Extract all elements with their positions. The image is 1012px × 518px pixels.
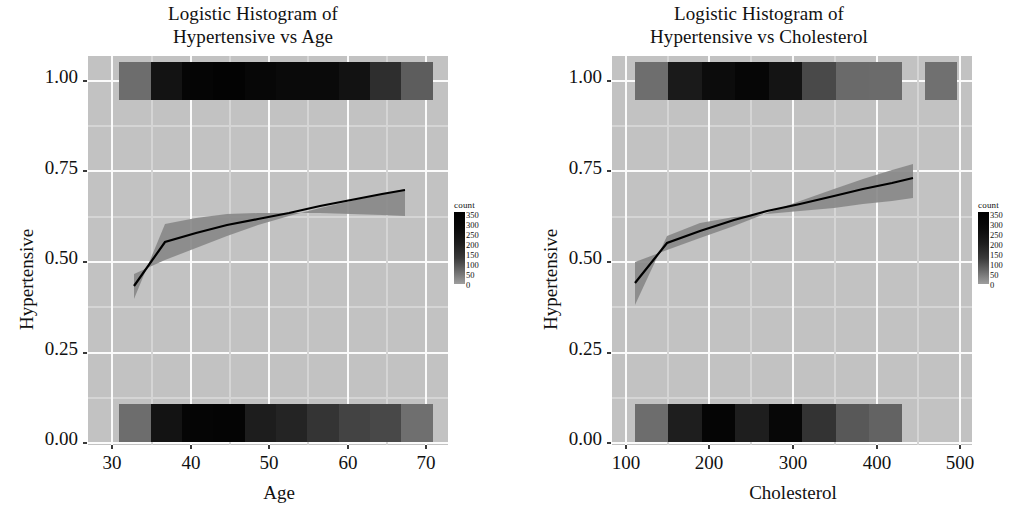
y-tick-mark-0.50 xyxy=(607,261,611,263)
legend-title: count xyxy=(454,200,490,210)
logistic-fit-age xyxy=(88,56,448,445)
x-tick-mark-50 xyxy=(268,445,270,449)
legend-tick-50: 50 xyxy=(466,271,475,280)
plot-title-line1: Logistic Histogram of xyxy=(0,2,506,25)
plot-title-age: Logistic Histogram of Hypertensive vs Ag… xyxy=(0,2,506,48)
y-tick-label-0.50: 0.50 xyxy=(22,247,78,269)
legend-tick-200: 200 xyxy=(466,241,479,250)
plot-area-cholesterol xyxy=(612,56,972,445)
x-tick-label-70: 70 xyxy=(391,452,461,474)
x-tick-mark-400 xyxy=(876,445,878,449)
plot-title-line2: Hypertensive vs Age xyxy=(0,25,506,48)
y-tick-label-1.00: 1.00 xyxy=(546,66,602,88)
y-tick-label-1.00: 1.00 xyxy=(22,66,78,88)
y-tick-label-0.00: 0.00 xyxy=(22,428,78,450)
x-tick-mark-500 xyxy=(959,445,961,449)
legend-tick-100: 100 xyxy=(466,261,479,270)
y-tick-mark-0.50 xyxy=(83,261,87,263)
x-tick-mark-60 xyxy=(347,445,349,449)
legend-body: 350 300 250 200 150 100 50 0 xyxy=(454,212,490,284)
legend-tick-200: 200 xyxy=(990,241,1003,250)
legend-tick-0: 0 xyxy=(466,281,470,290)
x-tick-label-50: 50 xyxy=(234,452,304,474)
legend-colorbar xyxy=(978,212,989,284)
x-tick-mark-30 xyxy=(111,445,113,449)
x-tick-label-300: 300 xyxy=(758,452,828,474)
y-tick-mark-0.00 xyxy=(83,442,87,444)
confidence-ribbon-cholesterol xyxy=(635,164,913,305)
legend-tick-250: 250 xyxy=(466,231,479,240)
y-tick-mark-0.75 xyxy=(607,170,611,172)
legend-body: 350 300 250 200 150 100 50 0 xyxy=(978,212,1012,284)
legend-tick-350: 350 xyxy=(466,211,479,220)
y-tick-label-0.00: 0.00 xyxy=(546,428,602,450)
y-tick-label-0.25: 0.25 xyxy=(22,338,78,360)
legend-tick-350: 350 xyxy=(990,211,1003,220)
legend-tick-0: 0 xyxy=(990,281,994,290)
legend-age: count 350 300 250 200 150 100 50 0 xyxy=(454,200,490,284)
legend-tick-300: 300 xyxy=(466,221,479,230)
x-tick-mark-200 xyxy=(708,445,710,449)
legend-tick-250: 250 xyxy=(990,231,1003,240)
confidence-ribbon-age xyxy=(134,189,405,299)
legend-colorbar xyxy=(454,212,465,284)
plot-panel-age: Logistic Histogram of Hypertensive vs Ag… xyxy=(0,0,506,518)
legend-tick-150: 150 xyxy=(466,251,479,260)
y-axis-title-age: Hypertensive xyxy=(16,229,38,330)
x-axis-title-cholesterol: Cholesterol xyxy=(506,482,1012,504)
x-tick-label-200: 200 xyxy=(674,452,744,474)
x-tick-label-60: 60 xyxy=(313,452,383,474)
x-axis-title-age: Age xyxy=(0,482,506,504)
y-axis-title-cholesterol: Hypertensive xyxy=(540,229,562,330)
x-tick-label-400: 400 xyxy=(842,452,912,474)
x-tick-mark-40 xyxy=(190,445,192,449)
y-tick-label-0.75: 0.75 xyxy=(22,157,78,179)
y-tick-label-0.75: 0.75 xyxy=(546,157,602,179)
logistic-fit-cholesterol xyxy=(612,56,972,445)
figure-canvas: Logistic Histogram of Hypertensive vs Ag… xyxy=(0,0,1012,518)
legend-tick-150: 150 xyxy=(990,251,1003,260)
plot-title-line1: Logistic Histogram of xyxy=(506,2,1012,25)
legend-tick-50: 50 xyxy=(990,271,999,280)
y-tick-label-0.25: 0.25 xyxy=(546,338,602,360)
x-tick-label-100: 100 xyxy=(591,452,661,474)
x-tick-label-30: 30 xyxy=(77,452,147,474)
y-tick-mark-0.00 xyxy=(607,442,611,444)
plot-title-cholesterol: Logistic Histogram of Hypertensive vs Ch… xyxy=(506,2,1012,48)
legend-tick-100: 100 xyxy=(990,261,1003,270)
y-tick-mark-1.00 xyxy=(607,80,611,82)
plot-panel-cholesterol: Logistic Histogram of Hypertensive vs Ch… xyxy=(506,0,1012,518)
y-tick-label-0.50: 0.50 xyxy=(546,247,602,269)
x-tick-label-40: 40 xyxy=(156,452,226,474)
legend-tick-list: 350 300 250 200 150 100 50 0 xyxy=(990,212,1012,284)
x-tick-mark-70 xyxy=(425,445,427,449)
y-tick-mark-1.00 xyxy=(83,80,87,82)
y-tick-mark-0.25 xyxy=(83,352,87,354)
x-tick-mark-300 xyxy=(792,445,794,449)
plot-title-line2: Hypertensive vs Cholesterol xyxy=(506,25,1012,48)
legend-title: count xyxy=(978,200,1012,210)
legend-cholesterol: count 350 300 250 200 150 100 50 0 xyxy=(978,200,1012,284)
x-tick-label-500: 500 xyxy=(925,452,995,474)
legend-tick-list: 350 300 250 200 150 100 50 0 xyxy=(466,212,490,284)
y-tick-mark-0.75 xyxy=(83,170,87,172)
legend-tick-300: 300 xyxy=(990,221,1003,230)
plot-area-age xyxy=(88,56,448,445)
x-tick-mark-100 xyxy=(625,445,627,449)
y-tick-mark-0.25 xyxy=(607,352,611,354)
